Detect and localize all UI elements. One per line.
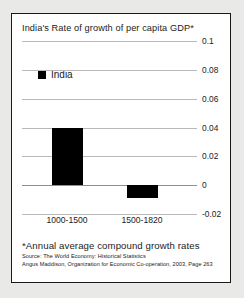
y-axis-tick-label: 0.08 <box>202 65 218 75</box>
y-axis-tick-label: 0.04 <box>202 123 218 133</box>
gridline-0.1 <box>22 41 197 42</box>
gridline-0 <box>22 185 197 186</box>
x-axis-category-label: 1000-1500 <box>46 215 87 225</box>
chart-title: India's Rate of growth of per capita GDP… <box>22 23 194 33</box>
source-line-1: Source: The World Economy: Historical St… <box>22 253 222 259</box>
y-axis-tick-label: 0.02 <box>202 151 218 161</box>
bar-1000-1500 <box>52 128 83 186</box>
gridline-0.04 <box>22 128 197 129</box>
footnote-text: *Annual average compound growth rates <box>22 240 222 251</box>
source-line-2: Angus Maddison, Organization for Economi… <box>22 261 222 267</box>
gridline-0.08 <box>22 70 197 71</box>
gridline-0.06 <box>22 99 197 100</box>
y-axis-tick-label: 0.06 <box>202 94 218 104</box>
bar-1500-1820 <box>127 185 158 198</box>
footnote-block: *Annual average compound growth ratesSou… <box>22 240 222 267</box>
chart-figure: India's Rate of growth of per capita GDP… <box>11 13 231 283</box>
plot-area <box>22 41 197 214</box>
y-axis-tick-label: 0 <box>202 180 207 190</box>
y-axis-tick-label: -0.02 <box>202 209 221 219</box>
y-axis-tick-label: 0.1 <box>202 36 214 46</box>
x-axis-category-label: 1500-1820 <box>121 215 162 225</box>
gridline-0.02 <box>22 156 197 157</box>
